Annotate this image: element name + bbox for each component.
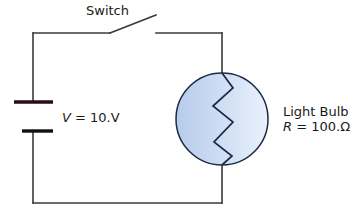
circuit-diagram: Switch V = 10.V Light Bulb R = 100.Ω — [0, 0, 357, 216]
switch-label: Switch — [86, 3, 129, 18]
resistance-label: R = 100.Ω — [283, 119, 350, 134]
voltage-symbol: V — [62, 110, 71, 125]
light-bulb-name: Light Bulb — [283, 104, 350, 119]
light-bulb-envelope — [176, 73, 268, 165]
resistance-equation: = 100.Ω — [292, 119, 350, 134]
voltage-label: V = 10.V — [62, 110, 120, 125]
voltage-equation: = 10.V — [71, 110, 120, 125]
resistance-symbol: R — [283, 119, 292, 134]
light-bulb-label: Light Bulb R = 100.Ω — [283, 104, 350, 135]
